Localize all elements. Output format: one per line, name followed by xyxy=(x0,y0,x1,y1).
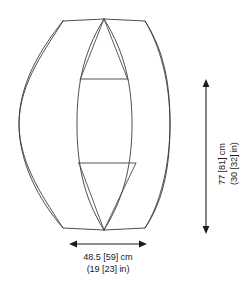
height-label-imperial: (30 [32] in) xyxy=(229,142,239,185)
lantern-rib-top-right xyxy=(104,19,128,80)
lantern-rib-bottom-right xyxy=(104,163,136,230)
lantern-left-bulge-arc xyxy=(19,21,63,228)
width-label-imperial: (19 [23] in) xyxy=(87,264,130,274)
height-dimension-arrowhead-top xyxy=(203,79,210,87)
lantern-dimension-diagram: 77 [81] cm (30 [32] in) 48.5 [59] cm (19… xyxy=(0,0,247,291)
height-dimension-group: 77 [81] cm (30 [32] in) xyxy=(203,79,239,234)
lantern-rib-top-left xyxy=(80,19,104,80)
width-label-metric: 48.5 [59] cm xyxy=(83,252,133,262)
height-dimension-arrowhead-bottom xyxy=(203,226,210,234)
height-label-metric: 77 [81] cm xyxy=(217,143,227,185)
technical-drawing-canvas: 77 [81] cm (30 [32] in) 48.5 [59] cm (19… xyxy=(0,0,247,291)
lantern-right-bulge-arc xyxy=(145,21,170,228)
lantern-inner-panel-left-arc xyxy=(77,19,104,230)
width-dimension-arrowhead-left xyxy=(69,241,77,248)
lantern-inner-panel-right-arc xyxy=(104,19,132,230)
width-dimension-arrowhead-right xyxy=(139,241,147,248)
lantern-rib-bottom-left xyxy=(79,163,104,230)
width-dimension-group: 48.5 [59] cm (19 [23] in) xyxy=(69,241,147,274)
